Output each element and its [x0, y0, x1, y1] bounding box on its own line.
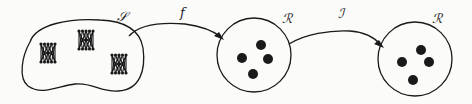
graph-cluster-icon	[110, 53, 127, 74]
arrow-f	[129, 23, 221, 37]
element-dot	[408, 75, 418, 85]
arrow-i-label: ℐ	[338, 7, 344, 20]
target-set-circle	[378, 22, 452, 96]
element-dot	[248, 69, 258, 79]
middle-set-circle	[217, 18, 291, 92]
element-dot	[256, 40, 266, 50]
mapping-diagram	[0, 0, 472, 104]
target-set-label: ℛ	[432, 12, 442, 25]
element-dot	[424, 57, 434, 67]
arrow-i	[289, 31, 381, 45]
element-dot	[263, 54, 273, 64]
element-dot	[397, 57, 407, 67]
middle-set-label: ℛ	[282, 12, 292, 25]
graph-cluster-icon	[39, 42, 56, 63]
arrow-f-label: f	[180, 6, 185, 19]
source-set-label: 𝒮	[117, 10, 127, 23]
element-dot	[237, 53, 247, 63]
graph-cluster-icon	[77, 29, 94, 50]
element-dot	[416, 45, 426, 55]
